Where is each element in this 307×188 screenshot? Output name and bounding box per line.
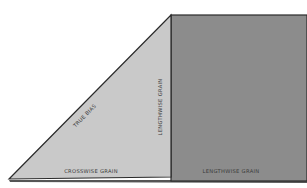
lengthwise-grain-vertical-label: LENGTHWISE GRAIN [157, 78, 163, 135]
fabric-rectangle [171, 15, 307, 181]
fabric-grain-diagram: TRUE BIAS LENGTHWISE GRAIN CROSSWISE GRA… [0, 0, 307, 188]
lengthwise-grain-bottom-label: LENGTHWISE GRAIN [202, 168, 259, 174]
crosswise-grain-label: CROSSWISE GRAIN [64, 168, 118, 174]
bias-fold-triangle [9, 15, 171, 179]
